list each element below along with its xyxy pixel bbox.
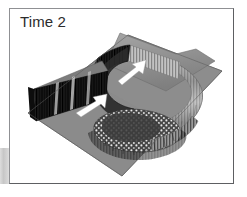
figure-frame: Time 2 <box>9 8 234 184</box>
surface-plot-graphic <box>10 9 233 183</box>
figure-panel: Time 2 <box>0 0 247 197</box>
three-d-scene <box>10 9 233 183</box>
